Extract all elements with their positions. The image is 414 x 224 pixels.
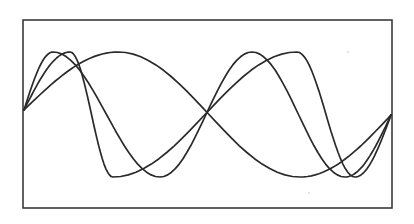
waveform-figure bbox=[0, 0, 414, 224]
scan-speck bbox=[347, 51, 349, 53]
curve-two-periods-b bbox=[24, 52, 391, 177]
curve-two-periods-a bbox=[24, 52, 391, 177]
curve-one-period bbox=[24, 52, 391, 177]
scan-speck bbox=[308, 192, 310, 194]
